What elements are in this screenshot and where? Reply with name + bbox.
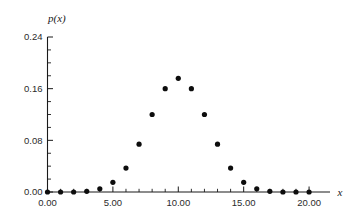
data-point-9 — [163, 86, 168, 91]
data-point-5 — [110, 180, 115, 185]
data-point-13 — [215, 142, 220, 147]
x-tick-label-4: 20.00 — [297, 197, 321, 208]
data-point-2 — [71, 189, 76, 194]
plot-canvas: 0.000.080.160.24 0.005.0010.0015.0020.00… — [0, 0, 356, 222]
data-point-11 — [189, 86, 194, 91]
x-tick-label-0: 0.00 — [38, 197, 57, 208]
y-tick-label-1: 0.08 — [24, 135, 43, 146]
y-axis-title: p(x) — [47, 12, 66, 25]
data-point-1 — [58, 189, 63, 194]
y-tick-label-3: 0.24 — [24, 31, 43, 42]
data-point-14 — [228, 166, 233, 171]
data-point-6 — [123, 166, 128, 171]
x-tick-label-3: 15.00 — [232, 197, 256, 208]
data-point-3 — [84, 189, 89, 194]
x-tick-label-1: 5.00 — [104, 197, 123, 208]
data-point-16 — [254, 186, 259, 191]
x-tick-label-2: 10.00 — [166, 197, 190, 208]
data-point-20 — [306, 189, 311, 194]
data-point-12 — [202, 112, 207, 117]
x-axis-title: x — [337, 186, 343, 198]
y-tick-label-2: 0.16 — [24, 83, 43, 94]
data-point-4 — [97, 186, 102, 191]
data-point-15 — [241, 180, 246, 185]
y-tick-label-0: 0.00 — [24, 186, 43, 197]
data-point-7 — [136, 142, 141, 147]
scatter-plot-figure: 0.000.080.160.24 0.005.0010.0015.0020.00… — [0, 0, 356, 222]
data-point-18 — [280, 189, 285, 194]
data-point-0 — [45, 189, 50, 194]
data-point-8 — [150, 112, 155, 117]
data-point-17 — [267, 189, 272, 194]
data-point-19 — [293, 189, 298, 194]
data-point-10 — [176, 76, 181, 81]
